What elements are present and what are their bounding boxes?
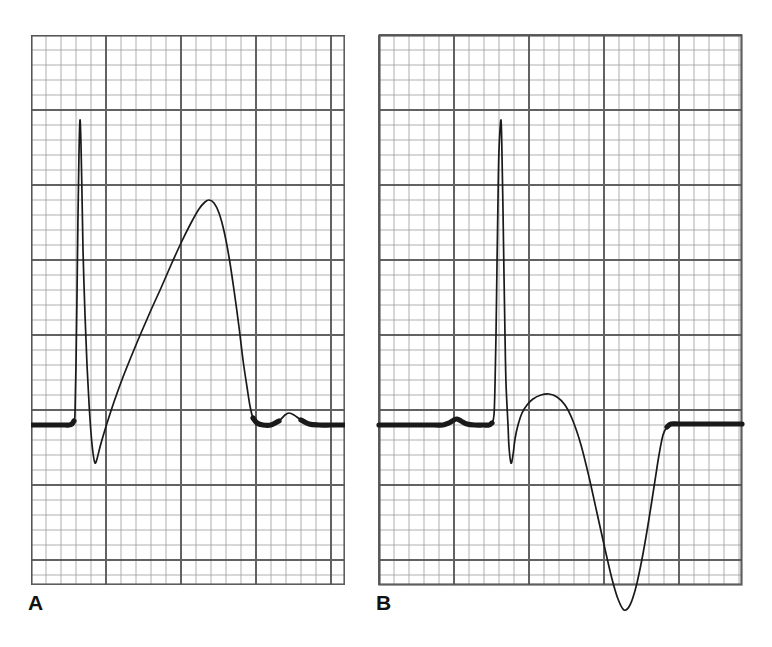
ecg-panel-a (31, 35, 345, 585)
panel-label-a: A (28, 592, 43, 613)
ecg-trace-b (379, 35, 742, 585)
ecg-trace-a (31, 35, 345, 585)
panel-label-b: B (376, 592, 391, 613)
ecg-figure: A B (0, 0, 772, 647)
ecg-panel-b (379, 35, 742, 585)
